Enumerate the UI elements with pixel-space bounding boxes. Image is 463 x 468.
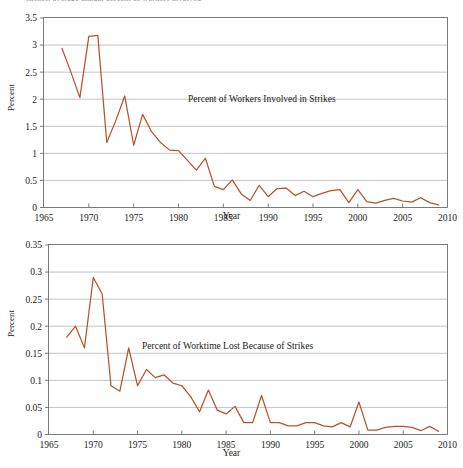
chart-bottom-frame <box>49 245 448 435</box>
chart-bottom-x-axis-title: Year <box>0 448 463 458</box>
chart-workers-involved-in-strikes: 00.511.522.533.5196519701975198019851990… <box>0 6 463 234</box>
svg-text:1: 1 <box>32 149 37 159</box>
chart-top-x-axis-title: Year <box>0 211 463 221</box>
svg-text:0.5: 0.5 <box>25 176 37 186</box>
chart-bottom-annotation: Percent of Worktime Lost Because of Stri… <box>142 341 313 351</box>
chart-top-data-line <box>62 35 439 204</box>
svg-text:0.05: 0.05 <box>25 403 42 413</box>
chart-bottom-gridlines <box>49 272 448 407</box>
chart-top-y-axis-title: Percent <box>6 84 16 111</box>
clipped-header-text: strikes, average annual percent of worke… <box>26 0 201 1</box>
svg-text:0.1: 0.1 <box>30 376 42 386</box>
chart-bottom-data-line <box>67 277 439 431</box>
svg-text:0.25: 0.25 <box>25 295 42 305</box>
svg-text:3: 3 <box>32 40 37 50</box>
figure-page: strikes, average annual percent of worke… <box>0 0 463 468</box>
svg-text:0.3: 0.3 <box>30 267 42 277</box>
chart-top-annotation: Percent of Workers Involved in Strikes <box>188 94 336 104</box>
chart-top-svg: 00.511.522.533.5196519701975198019851990… <box>0 6 463 234</box>
chart-bottom-svg: 00.050.10.150.20.250.30.3519651970197519… <box>0 236 463 468</box>
svg-text:0.35: 0.35 <box>25 240 42 250</box>
svg-text:0.2: 0.2 <box>30 322 42 332</box>
svg-text:0.15: 0.15 <box>25 349 42 359</box>
svg-text:2: 2 <box>32 95 37 105</box>
svg-text:3.5: 3.5 <box>25 13 37 23</box>
svg-text:2.5: 2.5 <box>25 68 37 78</box>
chart-bottom-ticks <box>45 245 403 435</box>
chart-top-ticks <box>40 18 403 208</box>
svg-text:0: 0 <box>37 430 42 440</box>
chart-worktime-lost-because-of-strikes: 00.050.10.150.20.250.30.3519651970197519… <box>0 236 463 468</box>
chart-bottom-y-axis-title: Percent <box>6 310 16 337</box>
svg-text:1.5: 1.5 <box>25 122 37 132</box>
